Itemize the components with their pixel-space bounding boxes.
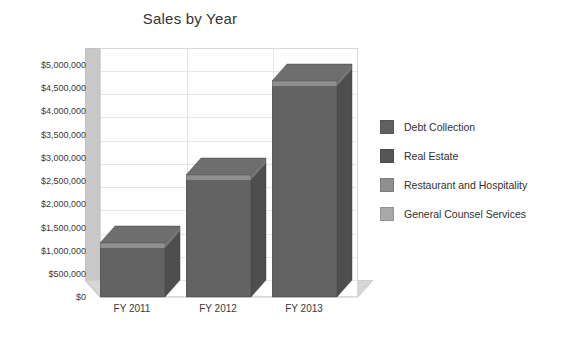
y-tick-label: $1,500,000 xyxy=(8,223,86,233)
y-tick-label: $3,500,000 xyxy=(8,130,86,140)
x-tick-label-fy-2013: FY 2013 xyxy=(259,303,349,314)
legend-item-general-counsel-services[interactable]: General Counsel Services xyxy=(380,199,570,228)
y-axis: $5,000,000 $4,500,000 $4,000,000 $3,500,… xyxy=(6,0,86,338)
y-tick-label: $0 xyxy=(8,292,86,302)
y-tick-label: $4,000,000 xyxy=(8,106,86,116)
legend-label: Debt Collection xyxy=(404,121,475,133)
y-tick-label: $1,000,000 xyxy=(8,246,86,256)
y-tick-label: $2,500,000 xyxy=(8,176,86,186)
y-tick-label: $4,500,000 xyxy=(8,83,86,93)
legend-swatch-icon xyxy=(380,149,394,163)
y-tick-label: $2,000,000 xyxy=(8,199,86,209)
legend-label: Restaurant and Hospitality xyxy=(404,179,527,191)
legend-item-restaurant-and-hospitality[interactable]: Restaurant and Hospitality xyxy=(380,170,570,199)
y-tick-label: $3,000,000 xyxy=(8,153,86,163)
legend-item-real-estate[interactable]: Real Estate xyxy=(380,141,570,170)
chart-legend: Debt Collection Real Estate Restaurant a… xyxy=(380,112,570,228)
legend-swatch-icon xyxy=(380,178,394,192)
legend-label: Real Estate xyxy=(404,150,458,162)
bar-fy-2012[interactable] xyxy=(186,142,281,305)
y-tick-label: $5,000,000 xyxy=(8,60,86,70)
legend-swatch-icon xyxy=(380,207,394,221)
chart-container: Sales by Year xyxy=(0,0,575,338)
legend-swatch-icon xyxy=(380,120,394,134)
legend-label: General Counsel Services xyxy=(404,208,526,220)
x-tick-label-fy-2012: FY 2012 xyxy=(173,303,263,314)
bar-fy-2011[interactable] xyxy=(100,210,195,305)
bar-fy-2013[interactable] xyxy=(272,48,367,305)
x-tick-label-fy-2011: FY 2011 xyxy=(87,303,177,314)
legend-item-debt-collection[interactable]: Debt Collection xyxy=(380,112,570,141)
y-tick-label: $500,000 xyxy=(8,269,86,279)
